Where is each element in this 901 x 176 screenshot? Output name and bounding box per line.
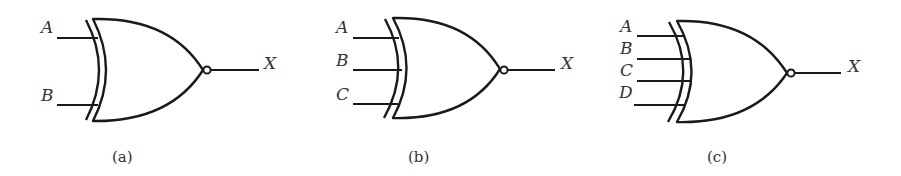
inversion-bubble-icon: [203, 66, 210, 73]
gate-c: A B C D X (c): [618, 16, 861, 166]
input-label-b-B: B: [335, 50, 349, 70]
xnor-gate-body-icon: [93, 19, 203, 121]
input-label-b-A: A: [334, 17, 348, 37]
output-label-b: X: [559, 53, 574, 73]
gate-b: A B C X (b): [334, 17, 574, 166]
input-label-c-D: D: [618, 82, 633, 102]
xnor-gate-body-icon: [677, 21, 787, 122]
gate-a: A B X (a): [39, 17, 277, 166]
xnor-gate-body-icon: [393, 18, 500, 118]
inversion-bubble-icon: [500, 66, 507, 73]
inversion-bubble-icon: [787, 69, 794, 76]
input-label-a-B: B: [40, 85, 54, 105]
input-label-c-B: B: [619, 38, 633, 58]
input-label-a-A: A: [39, 17, 53, 37]
input-label-c-A: A: [618, 16, 632, 36]
caption-c: (c): [707, 148, 727, 166]
output-label-a: X: [262, 53, 277, 73]
input-label-c-C: C: [620, 60, 633, 80]
caption-b: (b): [408, 148, 429, 166]
output-label-c: X: [846, 56, 861, 76]
caption-a: (a): [112, 148, 133, 166]
xnor-gates-figure: A B X (a) A B C X (b) A B C D X (c): [0, 0, 901, 176]
input-label-b-C: C: [336, 84, 349, 104]
